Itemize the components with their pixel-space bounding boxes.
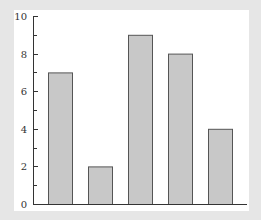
bar-4 (169, 54, 193, 204)
y-tick-label: 0 (21, 199, 27, 210)
bar-5 (209, 129, 233, 204)
y-tick-label: 8 (21, 49, 27, 60)
y-tick-label: 4 (21, 124, 27, 135)
y-tick-label: 10 (14, 11, 27, 22)
y-tick-label: 6 (21, 86, 27, 97)
y-tick-label: 2 (21, 161, 27, 172)
bar-1 (49, 73, 73, 205)
bar-chart: 0246810 (0, 0, 261, 220)
bar-3 (129, 35, 153, 204)
bar-2 (89, 167, 113, 205)
